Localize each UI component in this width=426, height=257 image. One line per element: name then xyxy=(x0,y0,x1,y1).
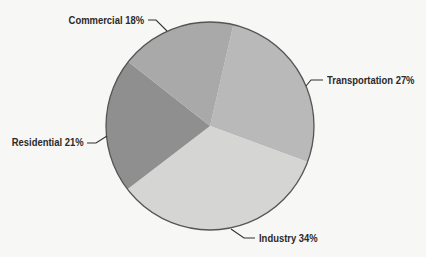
label-residential: Residential 21% xyxy=(12,135,84,149)
chart-canvas: Commercial 18% Transportation 27% Reside… xyxy=(0,0,426,257)
pie-slices xyxy=(106,22,314,230)
leader-line-commercial xyxy=(148,20,167,31)
leader-line-residential xyxy=(87,136,107,143)
label-industry: Industry 34% xyxy=(259,231,318,245)
leader-line-industry xyxy=(231,229,255,238)
label-commercial: Commercial 18% xyxy=(69,13,144,27)
leader-line-transportation xyxy=(306,80,323,86)
label-transportation: Transportation 27% xyxy=(327,73,415,87)
pie-chart xyxy=(0,0,426,257)
